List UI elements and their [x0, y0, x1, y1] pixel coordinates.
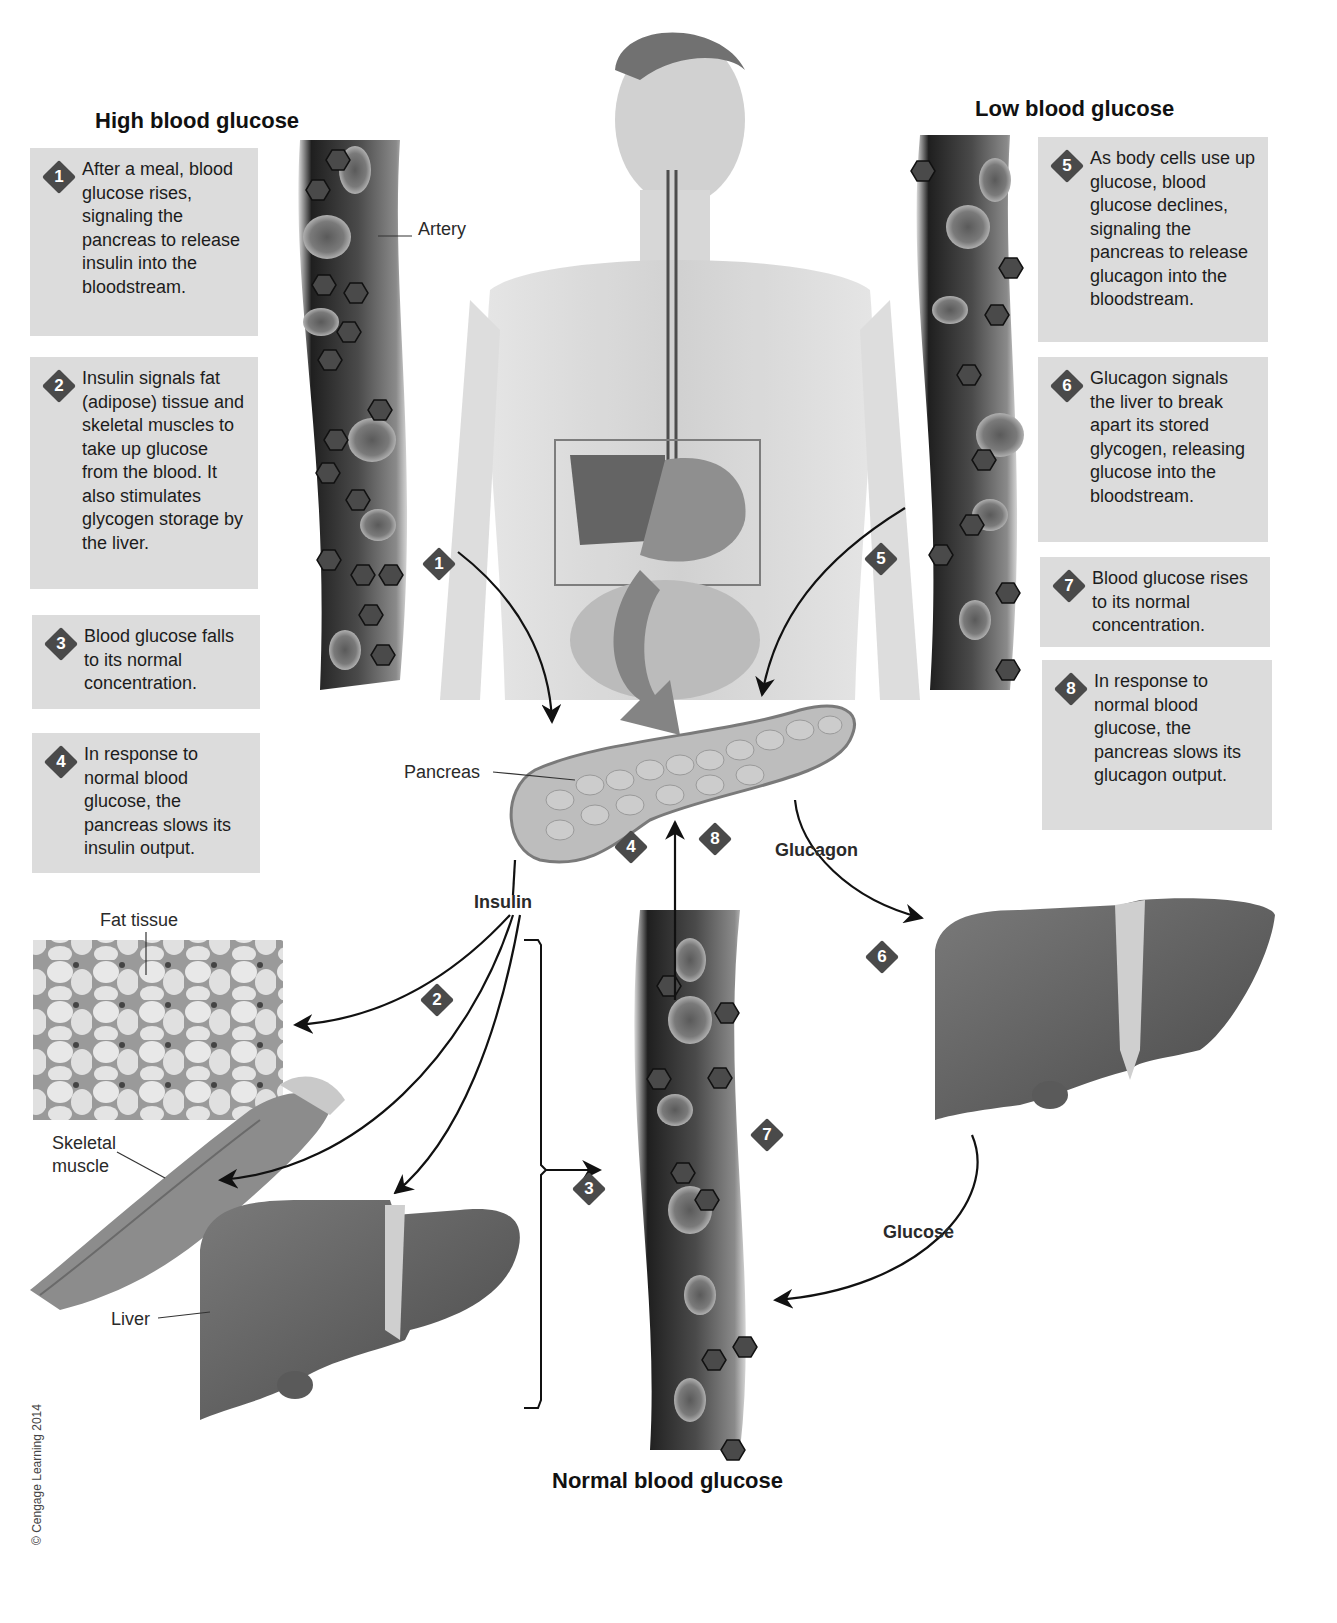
step-box-8: 8 In response to normal blood glucose, t… — [1042, 660, 1272, 830]
step-marker-6: 6 — [1050, 369, 1084, 403]
step-text-6: Glucagon signals the liver to break apar… — [1090, 368, 1245, 506]
skeletal-muscle-label-line2: muscle — [52, 1156, 109, 1177]
bracket — [524, 940, 546, 1408]
step-text-8: In response to normal blood glucose, the… — [1094, 671, 1241, 785]
step-marker-3: 3 — [44, 627, 78, 661]
step-box-1: 1 After a meal, blood glucose rises, sig… — [30, 148, 258, 336]
step-marker-1: 1 — [42, 160, 76, 194]
diagram-marker-8: 8 — [698, 822, 732, 856]
step-marker-8: 8 — [1054, 672, 1088, 706]
step-text-7: Blood glucose rises to its normal concen… — [1092, 568, 1248, 635]
step-text-4: In response to normal blood glucose, the… — [84, 744, 231, 858]
step-box-6: 6 Glucagon signals the liver to break ap… — [1038, 357, 1268, 542]
diagram-marker-1: 1 — [422, 547, 456, 581]
insulin-label: Insulin — [474, 892, 532, 913]
step-box-7: 7 Blood glucose rises to its normal conc… — [1040, 557, 1270, 647]
step-box-2: 2 Insulin signals fat (adipose) tissue a… — [30, 357, 258, 589]
human-torso — [440, 33, 920, 736]
step-marker-5: 5 — [1050, 149, 1084, 183]
diagram-marker-6: 6 — [865, 940, 899, 974]
liver-illustration-left — [200, 1200, 520, 1420]
diagram-marker-4: 4 — [614, 830, 648, 864]
diagram-marker-3: 3 — [572, 1172, 606, 1206]
artery-normal-glucose — [634, 910, 757, 1460]
fat-tissue-label: Fat tissue — [100, 910, 178, 931]
step-box-5: 5 As body cells use up glucose, blood gl… — [1038, 137, 1268, 342]
step-box-3: 3 Blood glucose falls to its normal conc… — [32, 615, 260, 709]
arrow-glucose-to-blood — [775, 1135, 978, 1300]
arrow-insulin-to-fat — [295, 915, 510, 1025]
step-text-5: As body cells use up glucose, blood gluc… — [1090, 148, 1255, 309]
liver-label: Liver — [111, 1309, 150, 1330]
step-marker-7: 7 — [1052, 569, 1086, 603]
pancreas-illustration — [511, 706, 854, 862]
step-text-1: After a meal, blood glucose rises, signa… — [82, 159, 240, 297]
step-marker-4: 4 — [44, 745, 78, 779]
diagram-marker-2: 2 — [420, 983, 454, 1017]
artery-high-glucose — [298, 140, 407, 690]
liver-illustration-right — [935, 898, 1275, 1120]
step-box-4: 4 In response to normal blood glucose, t… — [32, 733, 260, 873]
copyright-notice: © Cengage Learning 2014 — [30, 1404, 44, 1545]
artery-label: Artery — [418, 219, 466, 240]
diagram-marker-7: 7 — [750, 1118, 784, 1152]
fat-tissue-image — [33, 940, 283, 1120]
pancreas-label: Pancreas — [404, 762, 480, 783]
arrow-insulin-to-liver — [395, 915, 520, 1193]
diagram-marker-5: 5 — [864, 542, 898, 576]
glucose-label: Glucose — [883, 1222, 954, 1243]
artery-low-glucose — [911, 135, 1024, 690]
step-marker-2: 2 — [42, 369, 76, 403]
step-text-2: Insulin signals fat (adipose) tissue and… — [82, 368, 244, 553]
glucagon-label: Glucagon — [775, 840, 858, 861]
skeletal-muscle-label-line1: Skeletal — [52, 1133, 116, 1154]
step-text-3: Blood glucose falls to its normal concen… — [84, 626, 234, 693]
